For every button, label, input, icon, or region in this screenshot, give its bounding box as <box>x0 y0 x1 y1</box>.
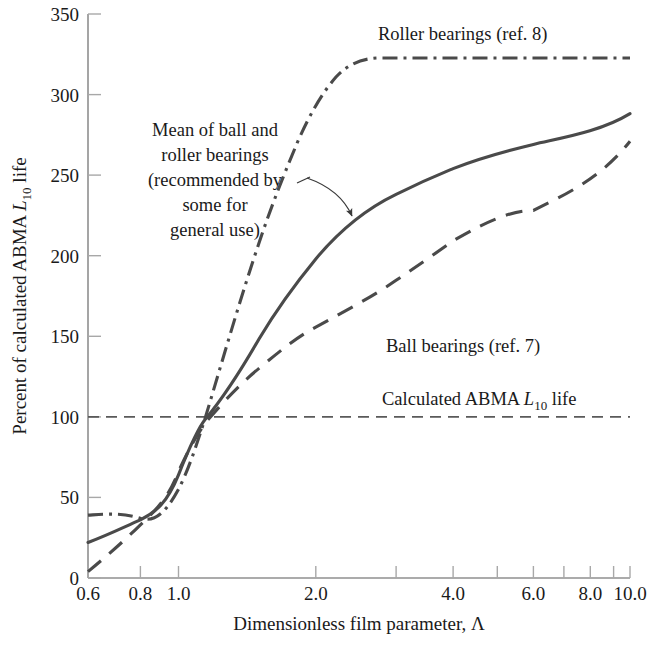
annotation-mean-line-2: roller bearings <box>161 145 268 165</box>
y-tick-200: 200 <box>51 246 80 267</box>
y-tick-150: 150 <box>51 326 80 347</box>
x-axis-title: Dimensionless film parameter, Λ <box>233 613 485 634</box>
y-tick-250: 250 <box>51 165 80 186</box>
annotation-mean-line-3: (recommended by <box>148 170 283 191</box>
x-tick-0-6: 0.6 <box>76 583 100 604</box>
y-axis-tick-labels: 350 300 250 200 150 100 50 0 <box>51 4 80 589</box>
y-tick-350: 350 <box>51 4 80 25</box>
y-tick-300: 300 <box>51 85 80 106</box>
annotation-arrow <box>307 178 352 216</box>
annotation-mean-ball-and-roller: Mean of ball and roller bearings (recomm… <box>148 120 283 241</box>
x-tick-0-8: 0.8 <box>129 583 153 604</box>
annotation-mean-line-4: some for <box>182 195 247 215</box>
y-tick-100: 100 <box>51 407 80 428</box>
series-ball-bearings <box>88 141 630 571</box>
x-tick-10-0: 10.0 <box>613 583 646 604</box>
x-tick-8-0: 8.0 <box>578 583 602 604</box>
figure-container: 350 300 250 200 150 100 50 0 0.6 <box>0 0 653 656</box>
y-axis-ticks <box>88 14 101 578</box>
y-axis-title: Percent of calculated ABMA L10 life <box>9 157 34 434</box>
x-tick-6-0: 6.0 <box>522 583 546 604</box>
y-tick-50: 50 <box>60 487 79 508</box>
annotation-ball-bearings: Ball bearings (ref. 7) <box>386 336 540 357</box>
x-tick-4-0: 4.0 <box>441 583 465 604</box>
x-tick-2-0: 2.0 <box>304 583 328 604</box>
annotation-calculated-abma-l10-life: Calculated ABMA L10 life <box>382 389 576 413</box>
bearing-life-chart: 350 300 250 200 150 100 50 0 0.6 <box>0 0 653 656</box>
annotation-roller-bearings: Roller bearings (ref. 8) <box>378 24 548 45</box>
x-axis-tick-labels: 0.6 0.8 1.0 2.0 4.0 6.0 8.0 10.0 <box>76 583 647 604</box>
annotation-mean-line-1: Mean of ball and <box>152 120 279 140</box>
x-axis-ticks <box>88 566 630 578</box>
annotation-mean-line-5: general use) <box>170 220 260 241</box>
x-tick-1-0: 1.0 <box>167 583 191 604</box>
